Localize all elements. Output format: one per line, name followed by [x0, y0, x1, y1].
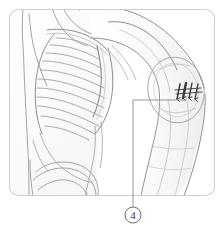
anatomy-drawing: [0, 0, 224, 228]
illustration-panel: 4: [0, 0, 224, 228]
callout-label-text: 4: [0, 208, 224, 222]
